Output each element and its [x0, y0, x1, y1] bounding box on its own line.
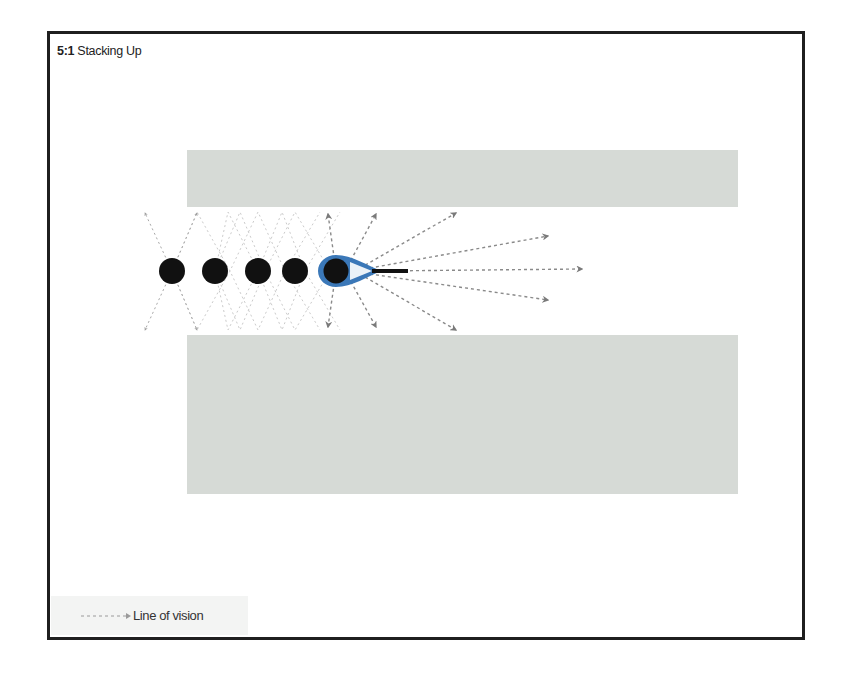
person-3	[245, 258, 271, 284]
person-front-highlighted	[318, 255, 408, 287]
queue-diagram	[0, 0, 844, 676]
person-4	[282, 258, 308, 284]
people	[159, 255, 408, 287]
person-1	[159, 258, 185, 284]
person-2	[202, 258, 228, 284]
